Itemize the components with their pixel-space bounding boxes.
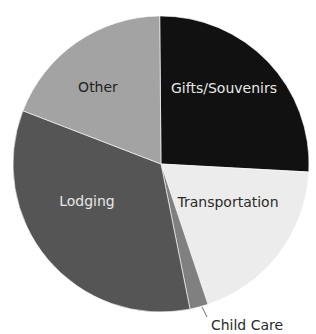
label-child-care: Child Care: [211, 317, 283, 333]
label-gifts-souvenirs: Gifts/Souvenirs: [171, 80, 277, 96]
label-transportation: Transportation: [176, 194, 278, 210]
pie-slices: [13, 16, 309, 312]
pie-chart: Gifts/SouvenirsTransportationChild CareL…: [0, 0, 316, 334]
leader-line-child-care: [202, 307, 207, 317]
leader-lines: [202, 307, 207, 317]
label-lodging: Lodging: [59, 193, 115, 209]
label-other: Other: [78, 79, 118, 95]
